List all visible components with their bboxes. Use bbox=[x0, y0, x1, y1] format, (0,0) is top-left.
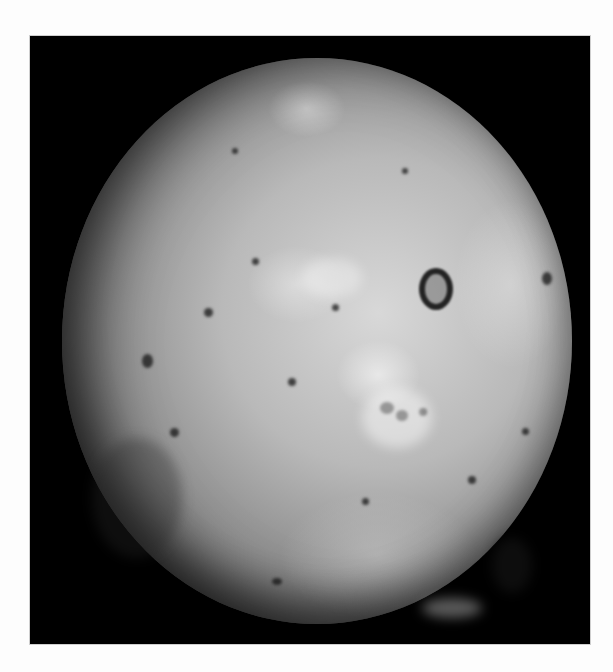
dark-spot bbox=[362, 498, 369, 505]
dark-spot bbox=[468, 476, 476, 484]
dark-region bbox=[92, 438, 182, 558]
dark-spot bbox=[142, 354, 153, 368]
dark-spot bbox=[170, 428, 179, 437]
dark-spot bbox=[272, 578, 282, 585]
dark-spot bbox=[288, 378, 296, 386]
dark-patch-feature bbox=[492, 538, 532, 593]
dark-spot bbox=[522, 428, 529, 435]
dark-spot bbox=[232, 148, 238, 154]
dark-spot bbox=[204, 308, 213, 317]
dark-spot bbox=[542, 272, 552, 285]
dark-spot bbox=[252, 258, 259, 265]
bright-patch bbox=[362, 388, 432, 448]
photo-frame bbox=[30, 36, 590, 644]
dark-ring-feature bbox=[419, 268, 453, 310]
dark-spot bbox=[402, 168, 408, 174]
dark-spot bbox=[332, 304, 339, 311]
bright-patch bbox=[422, 598, 482, 618]
io-moon-disk bbox=[62, 58, 572, 624]
bright-patch bbox=[302, 258, 362, 298]
